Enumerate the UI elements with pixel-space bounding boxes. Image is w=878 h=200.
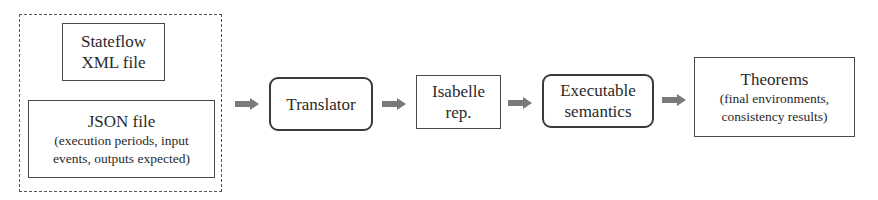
- translator-box: Translator: [269, 77, 373, 131]
- isabelle-line1: Isabelle: [432, 81, 485, 102]
- theorems-line2: consistency results): [721, 108, 827, 126]
- theorems-line1: (final environments,: [720, 90, 829, 108]
- executable-semantics-box: Executable semantics: [542, 74, 654, 128]
- json-title: JSON file: [88, 111, 156, 132]
- stateflow-xml-box: Stateflow XML file: [62, 23, 165, 81]
- translator-label: Translator: [286, 94, 355, 115]
- executable-line1: Executable: [560, 80, 636, 101]
- executable-line2: semantics: [564, 101, 631, 122]
- right-arrow-icon: [662, 94, 686, 106]
- right-arrow-icon: [235, 98, 259, 110]
- json-line1: (execution periods, input: [54, 132, 189, 150]
- right-arrow-icon: [508, 97, 532, 109]
- stateflow-line1: Stateflow: [81, 31, 146, 52]
- json-line2: events, outputs expected): [53, 150, 190, 168]
- isabelle-rep-box: Isabelle rep.: [416, 75, 501, 129]
- stateflow-line2: XML file: [81, 52, 145, 73]
- isabelle-line2: rep.: [446, 102, 472, 123]
- right-arrow-icon: [382, 98, 406, 110]
- json-file-box: JSON file (execution periods, input even…: [28, 100, 215, 178]
- theorems-title: Theorems: [741, 69, 809, 90]
- theorems-box: Theorems (final environments, consistenc…: [694, 57, 855, 137]
